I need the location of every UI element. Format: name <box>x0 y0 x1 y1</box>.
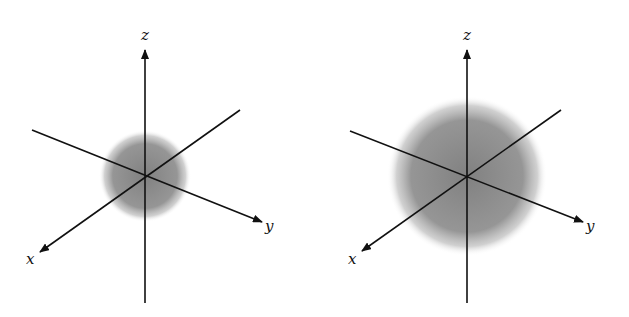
orbital-diagrams: z y x z y x <box>0 0 629 317</box>
diagram-small: z y x <box>26 26 274 303</box>
x-label: x <box>26 250 35 268</box>
z-label: z <box>140 26 149 44</box>
x-label: x <box>348 250 357 268</box>
y-label: y <box>585 217 595 235</box>
z-label: z <box>462 26 471 44</box>
y-label: y <box>264 217 274 235</box>
diagram-large: z y x <box>348 26 595 303</box>
